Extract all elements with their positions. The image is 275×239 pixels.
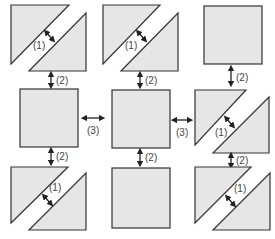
horizontal-gap-left: (3) bbox=[84, 118, 102, 136]
diagonal-gap-arrow-icon bbox=[227, 197, 234, 205]
diagonal-gap-arrow-icon bbox=[138, 32, 145, 40]
svg-text:(2): (2) bbox=[145, 75, 157, 86]
horizontal-gap-right: (3) bbox=[174, 120, 190, 138]
block-r2c2-square bbox=[112, 90, 170, 148]
quilt-diagram: (1) (1) (2) (2) (2) (3) (3) (1) bbox=[0, 0, 275, 239]
block-r1c1-triangle-pair: (1) bbox=[11, 5, 86, 71]
svg-text:(2): (2) bbox=[236, 155, 248, 166]
block-r2c1-square bbox=[20, 89, 78, 147]
diagonal-gap-label: (1) bbox=[125, 40, 137, 51]
block-r3c2-square bbox=[112, 168, 170, 228]
block-r1c3-square bbox=[204, 6, 262, 64]
block-r1c2-triangle-pair: (1) bbox=[103, 5, 178, 71]
svg-text:(2): (2) bbox=[56, 151, 68, 162]
svg-text:(1): (1) bbox=[234, 183, 246, 194]
svg-text:(2): (2) bbox=[145, 152, 157, 163]
svg-text:(1): (1) bbox=[215, 127, 227, 138]
diagonal-gap-arrow-icon bbox=[226, 118, 233, 126]
diagonal-gap-arrow-icon bbox=[46, 32, 53, 40]
block-r3c3-triangle-pair: (1) bbox=[195, 167, 270, 230]
svg-text:(2): (2) bbox=[236, 72, 248, 83]
diagonal-gap-arrow-icon bbox=[44, 196, 51, 204]
svg-text:(2): (2) bbox=[56, 75, 68, 86]
diagonal-gap-label: (1) bbox=[33, 40, 45, 51]
svg-text:(3): (3) bbox=[87, 125, 99, 136]
block-r2c3-triangle-pair: (1) bbox=[195, 90, 269, 153]
svg-text:(3): (3) bbox=[176, 127, 188, 138]
block-r3c1-triangle-pair: (1) bbox=[11, 167, 86, 230]
svg-text:(1): (1) bbox=[49, 182, 61, 193]
